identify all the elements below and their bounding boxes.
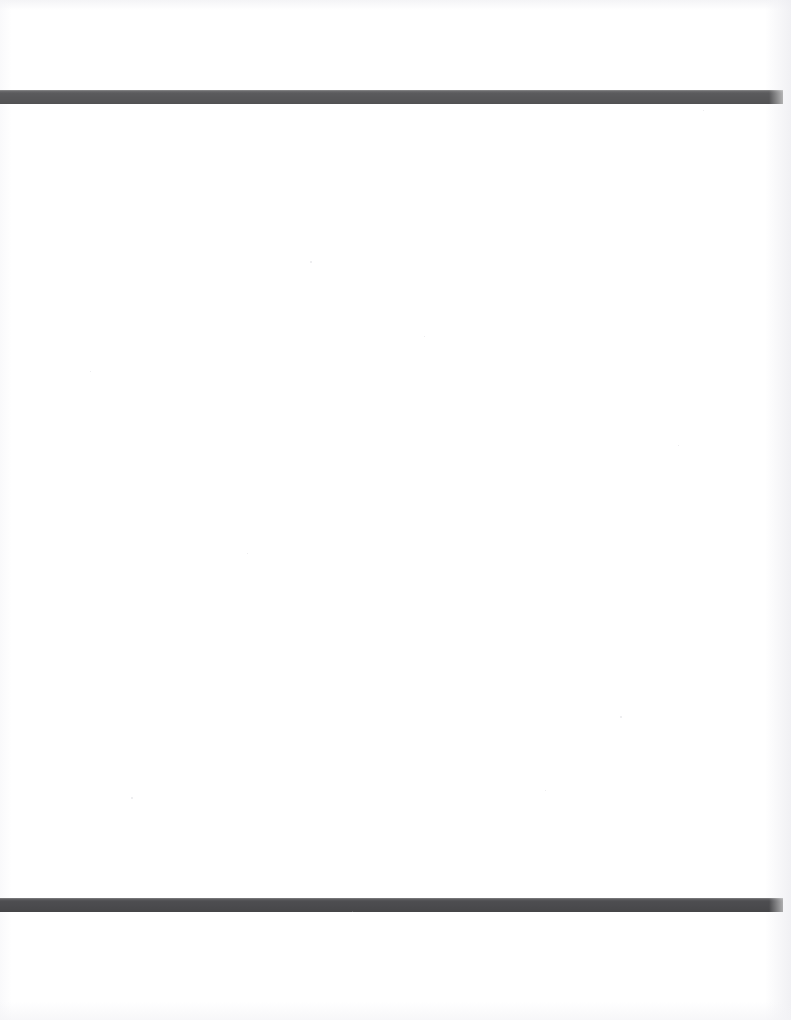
- top-horizontal-rule: [0, 90, 783, 104]
- region-below-bottom-rule: [0, 912, 791, 1020]
- scanned-page: [0, 0, 791, 1020]
- bottom-horizontal-rule: [0, 898, 783, 912]
- region-above-top-rule: [0, 0, 791, 90]
- top-horizontal-rule-fill: [0, 90, 783, 104]
- bottom-horizontal-rule-fill: [0, 898, 783, 912]
- page-content-area: [0, 104, 791, 898]
